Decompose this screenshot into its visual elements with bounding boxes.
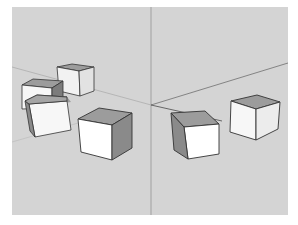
cube-left-lower[interactable] bbox=[25, 95, 71, 137]
cube-right-front[interactable] bbox=[171, 111, 219, 159]
cube-center[interactable] bbox=[78, 108, 132, 160]
3d-viewport[interactable]: Perspective 3D viewport showing seven cu… bbox=[12, 7, 288, 215]
scene-canvas[interactable] bbox=[12, 7, 288, 215]
cube-right-back[interactable] bbox=[230, 95, 280, 140]
